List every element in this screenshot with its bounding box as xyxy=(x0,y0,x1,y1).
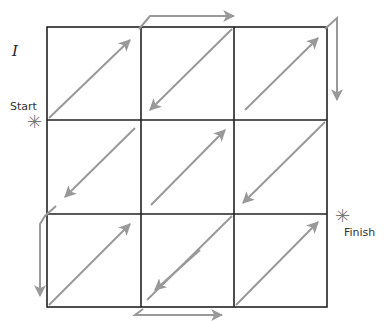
arrow-r1c1-up xyxy=(49,40,130,118)
path-diagram: I Start ✳ ✳ Finish xyxy=(0,0,388,321)
arrow-r1c3-up xyxy=(245,38,318,110)
arrow-r2c2-up xyxy=(151,130,225,205)
finish-marker-icon: ✳ xyxy=(335,205,350,226)
figure-label: I xyxy=(11,42,19,60)
arrow-r1c2-down xyxy=(150,29,232,110)
arrow-r2c1-down xyxy=(65,128,135,197)
arrow-r2c3-down xyxy=(243,122,325,203)
arrow-r2c2-to-r3c3 xyxy=(147,216,232,300)
path-arrows xyxy=(40,16,337,315)
arrow-bottom-under xyxy=(135,309,222,315)
arrow-r3c1-up xyxy=(49,224,130,305)
arrow-r3c3-up xyxy=(236,222,318,305)
finish-label: Finish xyxy=(344,226,375,239)
arrow-left-drop xyxy=(40,206,56,296)
start-marker-icon: ✳ xyxy=(27,111,42,132)
